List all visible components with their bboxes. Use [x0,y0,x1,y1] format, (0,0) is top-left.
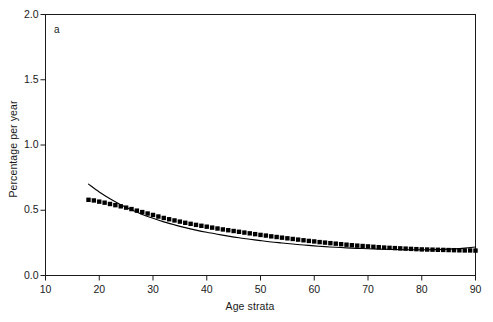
y-axis-ticks [41,15,46,276]
data-point-marker [339,242,343,246]
data-point-marker [258,233,262,237]
data-point-marker [102,200,106,204]
data-point-marker [205,224,209,228]
data-point-marker [425,247,429,251]
data-point-marker [387,246,391,250]
data-point-marker [317,240,321,244]
data-point-marker [366,244,370,248]
data-point-marker [264,233,268,237]
data-point-marker [360,244,364,248]
data-point-marker [463,248,467,252]
data-point-marker [468,248,472,252]
data-point-marker [151,213,155,217]
data-point-marker [92,198,96,202]
data-point-marker [248,231,252,235]
x-tick-label: 70 [353,283,383,295]
data-point-marker [409,247,413,251]
data-point-marker [129,207,133,211]
data-point-marker [124,205,128,209]
data-point-marker [269,234,273,238]
data-point-marker [430,247,434,251]
x-axis-title: Age strata [205,300,295,312]
fitted-curve-line [89,184,476,250]
y-tick-label: 1.5 [5,73,39,85]
data-point-marker [113,203,117,207]
data-point-marker [156,214,160,218]
data-point-marker [328,241,332,245]
y-tick-label: 2.0 [5,8,39,20]
data-point-marker [145,211,149,215]
data-point-marker [393,246,397,250]
data-point-marker [452,248,456,252]
data-point-marker [350,243,354,247]
y-tick-label: 0.0 [5,269,39,281]
data-point-marker [97,199,101,203]
observed-data-markers [86,198,477,253]
data-point-marker [178,219,182,223]
data-point-marker [334,241,338,245]
data-point-marker [108,202,112,206]
data-point-marker [119,204,123,208]
data-point-marker [344,243,348,247]
data-point-marker [135,208,139,212]
x-tick-label: 20 [84,283,114,295]
data-point-marker [172,218,176,222]
data-point-marker [285,236,289,240]
data-point-marker [188,222,192,226]
data-point-marker [420,247,424,251]
data-point-marker [231,229,235,233]
x-tick-label: 50 [246,283,276,295]
data-point-marker [194,223,198,227]
x-tick-label: 10 [31,283,61,295]
data-point-marker [237,230,241,234]
x-tick-label: 90 [461,283,491,295]
data-point-marker [253,232,257,236]
panel-label: a [54,24,60,35]
data-point-marker [199,224,203,228]
data-point-marker [403,246,407,250]
data-point-marker [398,246,402,250]
data-point-marker [162,216,166,220]
data-point-marker [167,217,171,221]
data-point-marker [312,239,316,243]
data-point-marker [280,235,284,239]
data-point-marker [323,240,327,244]
figure-panel-a: a Percentage per year Age strata 0.00.51… [0,0,493,322]
data-point-marker [221,227,225,231]
data-point-marker [371,245,375,249]
data-point-marker [301,238,305,242]
data-point-marker [307,239,311,243]
y-tick-label: 0.5 [5,203,39,215]
data-point-marker [355,243,359,247]
data-point-marker [86,198,90,202]
x-tick-label: 40 [192,283,222,295]
data-point-marker [183,221,187,225]
data-point-marker [210,225,214,229]
data-point-marker [226,228,230,232]
data-point-marker [473,248,477,252]
data-point-marker [446,248,450,252]
data-point-marker [274,235,278,239]
data-point-marker [296,237,300,241]
x-axis-ticks [46,276,476,281]
data-point-marker [377,245,381,249]
y-tick-label: 1.0 [5,138,39,150]
data-point-marker [457,248,461,252]
data-point-marker [242,230,246,234]
data-point-marker [140,210,144,214]
data-point-marker [215,226,219,230]
data-point-marker [414,247,418,251]
x-tick-label: 60 [299,283,329,295]
data-point-marker [382,245,386,249]
data-point-marker [436,248,440,252]
x-tick-label: 30 [138,283,168,295]
data-point-marker [441,248,445,252]
data-point-marker [291,237,295,241]
chart-plot-area [0,0,493,322]
x-tick-label: 80 [407,283,437,295]
